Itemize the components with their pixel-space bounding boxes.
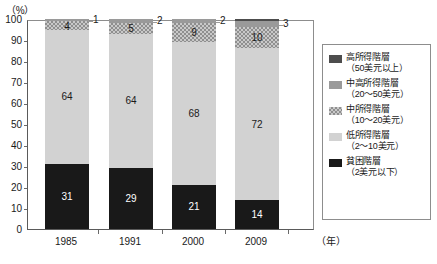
legend-label-name: 高所得階層 xyxy=(346,52,390,62)
legend-label-range: （20〜50美元） xyxy=(346,89,408,100)
legend-swatch-mid xyxy=(329,107,342,115)
x-tick-label-2009: 2009 xyxy=(234,236,278,247)
chart-canvas: （%） 0102030405060708090100 3164429645216… xyxy=(0,0,437,264)
legend-label-range: （10〜20美元） xyxy=(346,115,408,126)
bar-segment-1985-低所得階層: 64 xyxy=(45,30,89,164)
bar-value-label: 9 xyxy=(172,27,216,38)
bar-1991: 29645 xyxy=(109,19,153,229)
bar-segment-2000-貧困階層: 21 xyxy=(172,185,216,229)
bar-value-label: 10 xyxy=(235,32,279,43)
y-tick-label: 10 xyxy=(0,204,22,214)
bar-segment-2009-中高所得階層 xyxy=(235,21,279,27)
leader-line xyxy=(215,22,220,23)
legend-label: 貧困階層（2美元以下） xyxy=(346,156,403,177)
y-tick-label: 50 xyxy=(0,120,22,130)
legend-swatch-high xyxy=(329,55,342,63)
bar-segment-2009-高所得階層 xyxy=(235,19,279,21)
legend-label-name: 中高所得階層 xyxy=(346,78,398,88)
bar-value-label: 68 xyxy=(172,108,216,119)
bar-1985: 31644 xyxy=(45,19,89,229)
x-tick-mark xyxy=(288,230,289,234)
legend-rows: 高所得階層（50美元以上）中高所得階層（20〜50美元）中所得階層（10〜20美… xyxy=(329,52,425,177)
bar-segment-1991-貧困階層: 29 xyxy=(109,168,153,229)
x-tick-mark xyxy=(162,230,163,234)
y-tick-label: 40 xyxy=(0,141,22,151)
legend-item-mid[interactable]: 中所得階層（10〜20美元） xyxy=(329,104,425,125)
bar-value-label: 5 xyxy=(109,23,153,34)
plot-area: 316442964521689147210 xyxy=(27,20,314,230)
bar-value-label: 21 xyxy=(172,201,216,212)
legend-item-high[interactable]: 高所得階層（50美元以上） xyxy=(329,52,425,73)
bar-segment-2000-低所得階層: 68 xyxy=(172,42,216,185)
bar-segment-1991-低所得階層: 64 xyxy=(109,34,153,168)
bar-segment-2009-低所得階層: 72 xyxy=(235,48,279,199)
x-axis-unit-label: （年） xyxy=(316,236,346,247)
outside-value-label: 2 xyxy=(157,15,163,26)
bar-segment-1985-中高所得階層 xyxy=(45,19,89,21)
bar-segment-1985-中所得階層: 4 xyxy=(45,21,89,29)
legend-label-range: （2〜10美元） xyxy=(346,141,404,152)
bar-value-label: 72 xyxy=(235,119,279,130)
bar-value-label: 64 xyxy=(109,95,153,106)
legend-label-range: （50美元以上） xyxy=(346,63,408,74)
y-tick-label: 90 xyxy=(0,36,22,46)
x-tick-mark xyxy=(225,230,226,234)
outside-value-label: 1 xyxy=(93,14,99,25)
legend-label-range: （2美元以下） xyxy=(346,167,403,178)
y-tick-label: 20 xyxy=(0,183,22,193)
bar-value-label: 14 xyxy=(235,209,279,220)
x-tick-mark xyxy=(98,230,99,234)
bar-segment-2009-貧困階層: 14 xyxy=(235,200,279,229)
legend-item-poor[interactable]: 貧困階層（2美元以下） xyxy=(329,156,425,177)
y-tick-label: 0 xyxy=(0,225,22,235)
y-tick-label: 100 xyxy=(0,15,22,25)
leader-line xyxy=(278,25,283,26)
chart-legend: 高所得階層（50美元以上）中高所得階層（20〜50美元）中所得階層（10〜20美… xyxy=(322,44,431,220)
leader-line xyxy=(152,22,157,23)
legend-item-low[interactable]: 低所得階層（2〜10美元） xyxy=(329,130,425,151)
bar-2000: 21689 xyxy=(172,19,216,229)
x-tick-label-2000: 2000 xyxy=(171,236,215,247)
legend-item-upmid[interactable]: 中高所得階層（20〜50美元） xyxy=(329,78,425,99)
bar-segment-1985-貧困階層: 31 xyxy=(45,164,89,229)
bar-value-label: 64 xyxy=(45,91,89,102)
y-tick-label: 80 xyxy=(0,57,22,67)
legend-label-name: 低所得階層 xyxy=(346,130,390,140)
bar-segment-2000-中高所得階層 xyxy=(172,19,216,23)
y-tick-label: 70 xyxy=(0,78,22,88)
legend-label: 低所得階層（2〜10美元） xyxy=(346,130,404,151)
legend-label: 高所得階層（50美元以上） xyxy=(346,52,408,73)
bar-value-label: 31 xyxy=(45,191,89,202)
bar-segment-1991-中高所得階層 xyxy=(109,19,153,23)
legend-label-name: 中所得階層 xyxy=(346,104,390,114)
x-tick-label-1985: 1985 xyxy=(44,236,88,247)
bar-segment-2000-中所得階層: 9 xyxy=(172,23,216,42)
legend-label: 中高所得階層（20〜50美元） xyxy=(346,78,408,99)
legend-swatch-poor xyxy=(329,159,342,167)
legend-label-name: 貧困階層 xyxy=(346,156,381,166)
bar-segment-2009-中所得階層: 10 xyxy=(235,27,279,48)
leader-line xyxy=(88,21,93,22)
outside-value-label: 3 xyxy=(283,18,289,29)
legend-swatch-low xyxy=(329,133,342,141)
outside-value-label: 2 xyxy=(220,15,226,26)
y-tick-label: 60 xyxy=(0,99,22,109)
y-tick-label: 30 xyxy=(0,162,22,172)
legend-label: 中所得階層（10〜20美元） xyxy=(346,104,408,125)
bar-2009: 147210 xyxy=(235,19,279,229)
bar-segment-1991-中所得階層: 5 xyxy=(109,23,153,34)
x-tick-label-1991: 1991 xyxy=(108,236,152,247)
legend-swatch-upmid xyxy=(329,81,342,89)
bar-value-label: 29 xyxy=(109,193,153,204)
